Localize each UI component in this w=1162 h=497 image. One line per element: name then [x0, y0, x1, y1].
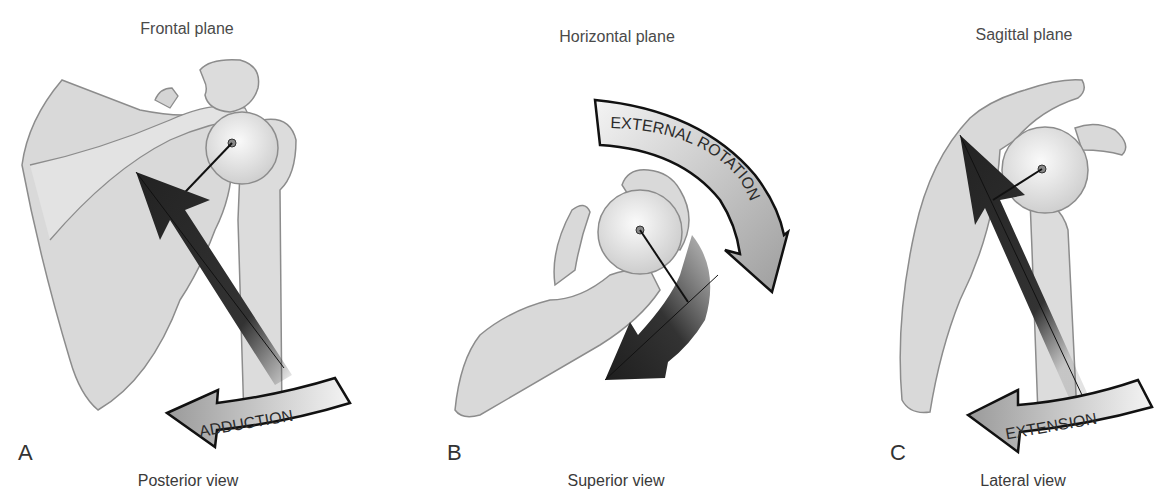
coracoid — [155, 88, 178, 108]
panel-b-view-caption: Superior view — [568, 472, 665, 490]
panel-a-view-caption: Posterior view — [138, 472, 238, 490]
panel-c-view-caption: Lateral view — [980, 472, 1065, 490]
panel-c-illustration: EXTENSION — [820, 0, 1162, 497]
acromion — [200, 60, 259, 112]
panel-b-illustration: EXTERNAL ROTATION — [400, 0, 820, 497]
coracoid — [554, 205, 590, 285]
panel-b: Horizontal plane — [400, 0, 820, 497]
humeral-head — [206, 112, 278, 184]
panel-c-letter: C — [890, 440, 906, 466]
panel-a: Frontal plane — [0, 0, 400, 497]
panel-c: Sagittal plane — [820, 0, 1162, 497]
panel-b-letter: B — [447, 440, 462, 466]
panel-a-illustration: ADDUCTION — [0, 0, 400, 497]
panel-a-letter: A — [18, 440, 33, 466]
